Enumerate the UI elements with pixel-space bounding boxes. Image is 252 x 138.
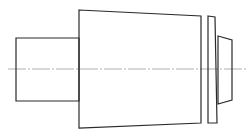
end-cap <box>218 36 232 104</box>
technical-drawing <box>0 0 252 138</box>
small-cylinder <box>16 38 79 101</box>
flange-plate <box>208 16 217 123</box>
